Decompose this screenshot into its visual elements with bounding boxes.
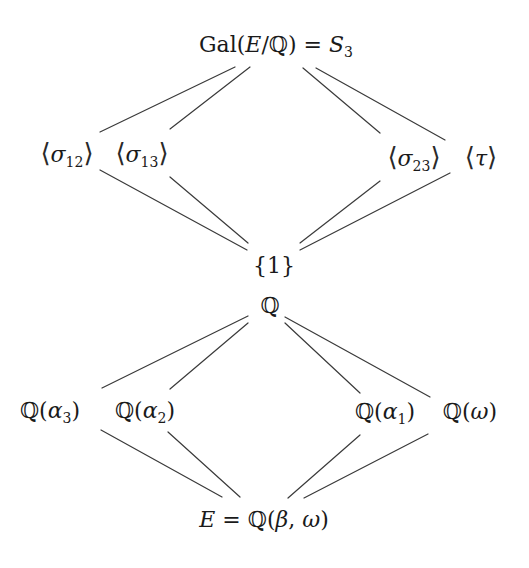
edge-gal-tau xyxy=(316,68,445,140)
edge-qw-E xyxy=(304,434,428,498)
node-field-Q-alpha1: ℚ(α1) xyxy=(355,401,415,423)
galois-diagram: Gal(E/ℚ) = S3 ⟨σ12⟩ ⟨σ13⟩ ⟨σ23⟩ ⟨τ⟩ {1} … xyxy=(0,0,529,568)
edge-Q-qa1 xyxy=(285,323,360,393)
node-subgroup-sigma23: ⟨σ23⟩ xyxy=(387,144,440,170)
edge-qa1-E xyxy=(288,435,360,498)
node-subgroup-sigma12: ⟨σ12⟩ xyxy=(40,140,93,166)
node-subgroup-tau: ⟨τ⟩ xyxy=(465,144,497,170)
node-base-field-Q: ℚ xyxy=(260,295,279,317)
edge-Q-qa2 xyxy=(170,323,248,389)
node-field-Q-alpha2: ℚ(α2) xyxy=(115,400,175,422)
edge-Q-qw xyxy=(285,317,430,397)
lattice-edges xyxy=(0,0,529,568)
edge-s23-one xyxy=(300,181,380,243)
node-field-Q-alpha3: ℚ(α3) xyxy=(20,400,80,422)
edge-s13-one xyxy=(170,177,248,243)
edge-s12-one xyxy=(100,170,247,250)
node-trivial-group: {1} xyxy=(253,255,295,277)
edge-Q-qa3 xyxy=(102,316,248,388)
edge-gal-s12 xyxy=(100,67,235,132)
node-subgroup-sigma13: ⟨σ13⟩ xyxy=(115,140,168,166)
node-splitting-field-E: E = ℚ(β, ω) xyxy=(199,509,329,531)
edge-qa3-E xyxy=(101,430,222,497)
edge-gal-s23 xyxy=(303,68,380,133)
node-field-Q-omega: ℚ(ω) xyxy=(443,401,497,423)
edge-gal-s13 xyxy=(170,67,250,129)
node-galois-group: Gal(E/ℚ) = S3 xyxy=(199,34,353,56)
